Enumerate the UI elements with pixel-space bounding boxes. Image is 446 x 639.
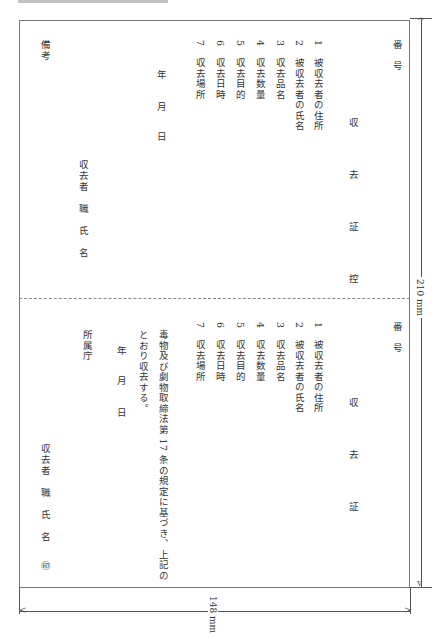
cut-off-header-text bbox=[18, 0, 168, 7]
cert-statement-line2: とおり収去する。 bbox=[138, 330, 148, 414]
cert-item-2: 2 被収去者の氏名 bbox=[294, 322, 304, 414]
stub-item-5: 5 収去目的 bbox=[235, 40, 245, 100]
arrow-right-icon: > bbox=[404, 606, 412, 615]
stub-date-year: 年 bbox=[156, 70, 166, 81]
cert-date-month: 月 bbox=[116, 376, 126, 387]
arrow-down-icon: v bbox=[417, 579, 422, 588]
stub-item-6: 6 収去日時 bbox=[215, 40, 225, 100]
arrow-left-icon: < bbox=[19, 606, 27, 615]
cert-date-year: 年 bbox=[116, 346, 126, 357]
width-label: 148 mm bbox=[208, 594, 218, 635]
stub-item-1: 1 被収去者の住所 bbox=[313, 40, 323, 132]
cert-item-3: 3 収去品名 bbox=[275, 322, 285, 382]
cert-item-1: 1 被収去者の住所 bbox=[313, 322, 323, 414]
height-label: 210 mm bbox=[415, 277, 425, 318]
stub-item-4: 4 収去数量 bbox=[255, 40, 265, 100]
stub-date-day: 日 bbox=[156, 132, 166, 143]
cert-collector-signature: 収去者 職 氏 名 bbox=[40, 444, 50, 543]
stub-collector-signature: 収去者 職 氏 名 bbox=[78, 160, 88, 259]
cert-statement-line1: 毒物及び劇物取締法第 17 条の規定に基づき、上記の bbox=[158, 330, 168, 581]
stub-title: 収 去 証 控 bbox=[348, 118, 358, 300]
cert-number-label: 番 号 bbox=[392, 322, 402, 354]
stub-item-3: 3 収去品名 bbox=[275, 40, 285, 100]
cert-item-7: 7 収去場所 bbox=[195, 322, 205, 382]
arrow-up-icon: ^ bbox=[417, 17, 425, 26]
cert-date-day: 日 bbox=[116, 408, 126, 419]
cert-agency-label: 所属庁 bbox=[82, 330, 92, 362]
stub-date-month: 月 bbox=[156, 102, 166, 113]
stub-remarks-label: 備考 bbox=[40, 40, 50, 61]
seal-mark-icon: ㊞ bbox=[40, 561, 50, 572]
stub-item-2: 2 被収去者の氏名 bbox=[294, 40, 304, 132]
cert-item-5: 5 収去目的 bbox=[235, 322, 245, 382]
cert-title: 収 去 証 bbox=[348, 398, 358, 528]
stub-number-label: 番 号 bbox=[392, 40, 402, 72]
stub-item-7: 7 収去場所 bbox=[195, 40, 205, 100]
cert-item-4: 4 収去数量 bbox=[255, 322, 265, 382]
cert-item-6: 6 収去日時 bbox=[215, 322, 225, 382]
